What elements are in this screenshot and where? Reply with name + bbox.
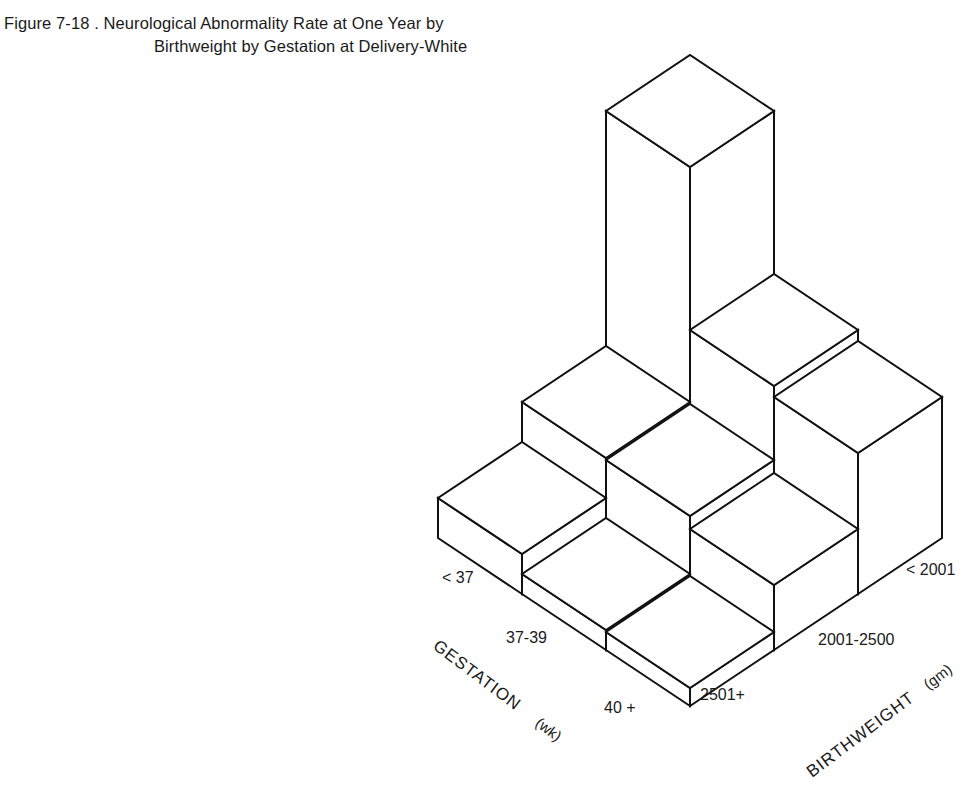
- birthweight-tick-2501plus: 2501+: [700, 686, 745, 703]
- bar-chart-3d: < 37 37-39 40 + < 2001 2001-2500 2501+ G…: [0, 0, 970, 805]
- birthweight-axis-title: BIRTHWEIGHT (gm): [803, 660, 956, 782]
- gestation-tick-37-39: 37-39: [506, 629, 547, 646]
- gestation-tick-lt37: < 37: [442, 569, 474, 586]
- birthweight-tick-lt2001: < 2001: [906, 561, 955, 578]
- birthweight-axis-unit: (gm): [920, 660, 955, 692]
- birthweight-axis-label: BIRTHWEIGHT: [803, 688, 918, 781]
- bars-group: [438, 55, 942, 706]
- gestation-tick-40plus: 40 +: [604, 699, 636, 716]
- gestation-axis-unit: (wk): [532, 714, 565, 745]
- gestation-axis-label: GESTATION: [430, 636, 525, 714]
- gestation-axis-title: GESTATION (wk): [430, 636, 566, 745]
- birthweight-tick-2001-2500: 2001-2500: [818, 631, 895, 648]
